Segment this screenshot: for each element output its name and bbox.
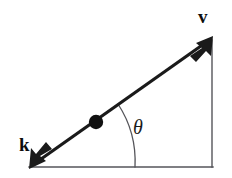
arrowhead-v-icon [190,36,213,62]
point-marker-dot [89,115,103,129]
angle-label-theta: θ [133,117,143,137]
vector-head-label-v: v [198,7,208,26]
vector-angle-figure: v k θ [0,0,232,178]
vector-tail-label-k: k [19,135,30,154]
vector-shaft [34,41,208,164]
